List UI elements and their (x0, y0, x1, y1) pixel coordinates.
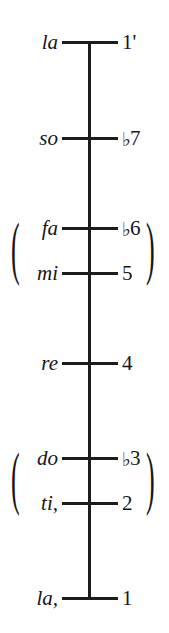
syllable-label: so (39, 128, 58, 149)
degree-tick (62, 227, 118, 230)
syllable-label: fa (42, 218, 58, 239)
flat-icon: ♭ (122, 449, 131, 470)
syllable-label: la (42, 32, 58, 53)
flat-icon: ♭ (122, 219, 131, 240)
degree-label: ♭6 (122, 218, 140, 239)
degree-tick (62, 362, 118, 365)
degree-tick (62, 457, 118, 460)
degree-number: 6 (130, 216, 141, 240)
syllable-label: mi (37, 263, 58, 284)
syllable-label: re (41, 353, 58, 374)
degree-label: 2 (122, 493, 133, 514)
degree-label: 5 (122, 263, 133, 284)
degree-label: 1' (122, 32, 136, 53)
degree-tick (62, 502, 118, 505)
degree-label: 4 (122, 353, 133, 374)
degree-tick (62, 41, 118, 44)
group-close-paren: ) (146, 216, 155, 285)
syllable-label: do (37, 448, 58, 469)
group-close-paren: ) (146, 446, 155, 515)
degree-number: 7 (130, 126, 141, 150)
group-open-paren: ( (11, 446, 20, 515)
degree-label: ♭7 (122, 128, 140, 149)
degree-tick (62, 137, 118, 140)
syllable-label: ti, (41, 493, 58, 514)
solfege-scale-diagram: lasofamiredoti,la, 1'♭7♭654♭321 ()() (0, 0, 169, 633)
degree-number: 3 (130, 446, 141, 470)
flat-icon: ♭ (122, 129, 131, 150)
group-open-paren: ( (11, 216, 20, 285)
degree-label: ♭3 (122, 448, 140, 469)
degree-tick (62, 597, 118, 600)
degree-tick (62, 272, 118, 275)
syllable-label: la, (36, 588, 58, 609)
vertical-axis-line (88, 42, 91, 599)
degree-label: 1 (122, 588, 133, 609)
